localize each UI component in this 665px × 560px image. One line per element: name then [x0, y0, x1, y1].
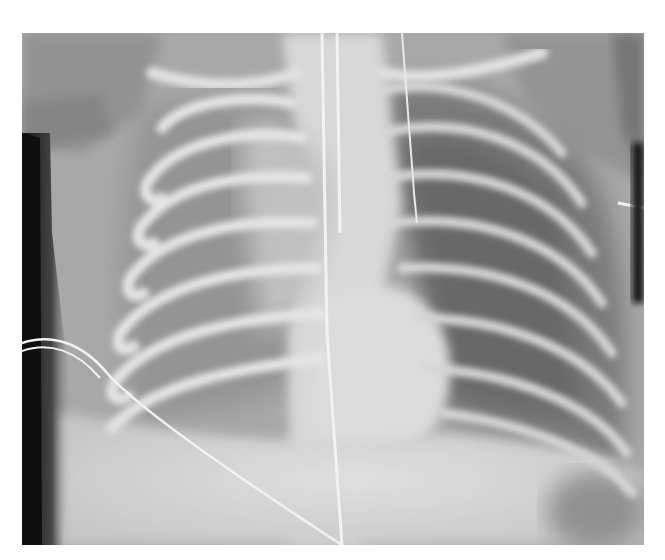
xray-graphic	[22, 33, 644, 545]
xray-image	[22, 33, 644, 545]
